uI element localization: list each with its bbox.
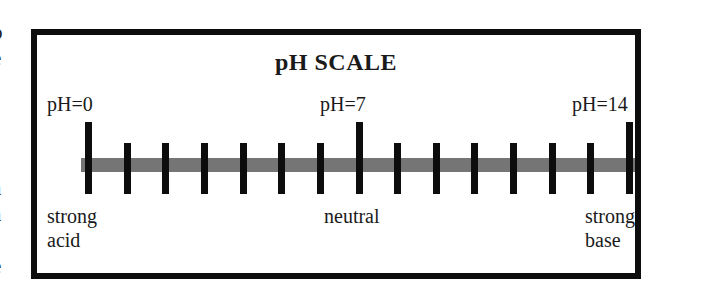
label-strong-base-2: base xyxy=(585,229,621,251)
margin-char: e xyxy=(0,256,1,277)
label-ph0: pH=0 xyxy=(47,93,93,115)
minor-tick xyxy=(317,143,324,194)
diagram-title: pH SCALE xyxy=(37,49,635,76)
minor-tick xyxy=(240,143,247,194)
margin-char: a xyxy=(0,178,1,199)
minor-tick xyxy=(162,143,169,194)
minor-tick xyxy=(471,143,478,194)
label-ph7: pH=7 xyxy=(320,93,366,115)
minor-tick xyxy=(587,143,594,194)
minor-tick xyxy=(549,143,556,194)
label-neutral: neutral xyxy=(324,205,380,227)
major-tick xyxy=(356,122,363,194)
label-ph14: pH=14 xyxy=(572,93,628,115)
major-tick xyxy=(626,122,633,194)
label-strong-acid-1: strong xyxy=(47,205,97,227)
label-strong-acid-2: acid xyxy=(47,229,80,251)
minor-tick xyxy=(278,143,285,194)
major-tick xyxy=(85,122,92,194)
margin-char: e xyxy=(0,48,1,69)
minor-tick xyxy=(510,143,517,194)
label-strong-base-1: strong xyxy=(585,205,635,227)
minor-tick xyxy=(124,143,131,194)
clipped-margin-text: o e s - - s a a - e xyxy=(0,0,6,289)
minor-tick xyxy=(394,143,401,194)
minor-tick xyxy=(433,143,440,194)
ph-scale-diagram: pH SCALE pH=0 pH=7 pH=14 strong acid neu… xyxy=(31,29,641,279)
minor-tick xyxy=(201,143,208,194)
margin-char: o xyxy=(0,22,3,43)
margin-char: a xyxy=(0,204,1,225)
